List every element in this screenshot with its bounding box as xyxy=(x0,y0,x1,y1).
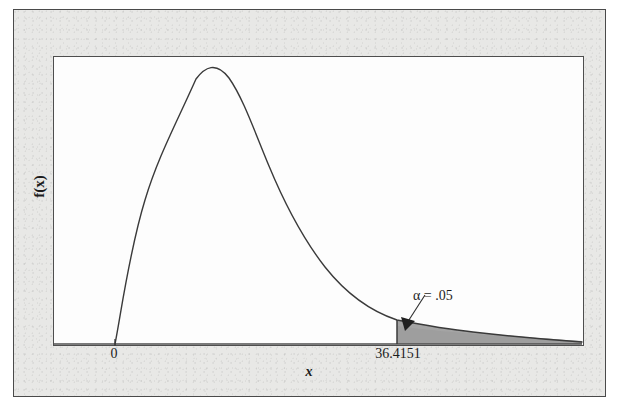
distribution-plot xyxy=(53,56,584,346)
density-curve xyxy=(115,67,582,344)
y-axis-label: f(x) xyxy=(31,164,48,210)
x-tick-label-zero: 0 xyxy=(98,346,130,362)
x-axis-label: x xyxy=(0,364,618,380)
alpha-annotation-label: α = .05 xyxy=(413,288,453,304)
x-tick-label-critical-value: 36.4151 xyxy=(348,346,448,362)
figure-container: f(x) x 0 36.4151 α = .05 xyxy=(0,0,618,415)
